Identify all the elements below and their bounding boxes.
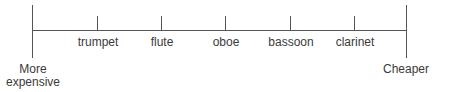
label-trumpet: trumpet [78, 36, 119, 49]
right-end-marker [406, 5, 407, 58]
label-bassoon: bassoon [268, 36, 313, 49]
price-scale-diagram: trumpet flute oboe bassoon clarinet More… [0, 0, 449, 92]
label-clarinet: clarinet [336, 36, 375, 49]
tick-clarinet [354, 16, 355, 30]
tick-flute [161, 16, 162, 30]
label-flute: flute [151, 36, 174, 49]
right-end-label: Cheaper [383, 63, 429, 76]
tick-oboe [225, 16, 226, 30]
left-end-label: More expensive [6, 63, 60, 89]
left-end-label-line2: expensive [6, 76, 60, 89]
tick-trumpet [97, 16, 98, 30]
scale-axis-line [32, 30, 407, 31]
left-end-marker [32, 5, 33, 58]
label-oboe: oboe [213, 36, 240, 49]
tick-bassoon [290, 16, 291, 30]
